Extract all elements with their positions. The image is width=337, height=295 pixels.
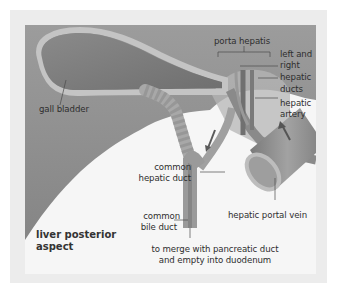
diagram-title-line-2: aspect (36, 241, 73, 254)
diagram-title-line-1: liver posterior (36, 229, 116, 242)
label-merge-1: to merge with pancreatic duct (140, 244, 290, 255)
label-common-bile-duct-1: common (143, 211, 180, 222)
label-common-hepatic-duct-2: hepatic duct (139, 173, 191, 184)
label-left-right-ducts-1: left and (280, 49, 312, 60)
label-left-right-ducts-2: right (280, 60, 300, 71)
label-merge-2: and empty into duodenum (140, 255, 290, 266)
common-hepatic-duct-shape (200, 108, 232, 168)
label-common-bile-duct-2: bile duct (141, 222, 177, 233)
label-porta-hepatis: porta hepatis (214, 36, 270, 47)
label-hepatic-artery-2: artery (280, 109, 305, 120)
label-gall-bladder: gall bladder (39, 104, 89, 115)
label-common-hepatic-duct-1: common (154, 162, 191, 173)
label-left-right-ducts-4: ducts (280, 84, 303, 95)
label-hepatic-portal-vein: hepatic portal vein (228, 210, 307, 221)
label-hepatic-artery-1: hepatic (280, 98, 311, 109)
label-left-right-ducts-3: hepatic (280, 72, 311, 83)
